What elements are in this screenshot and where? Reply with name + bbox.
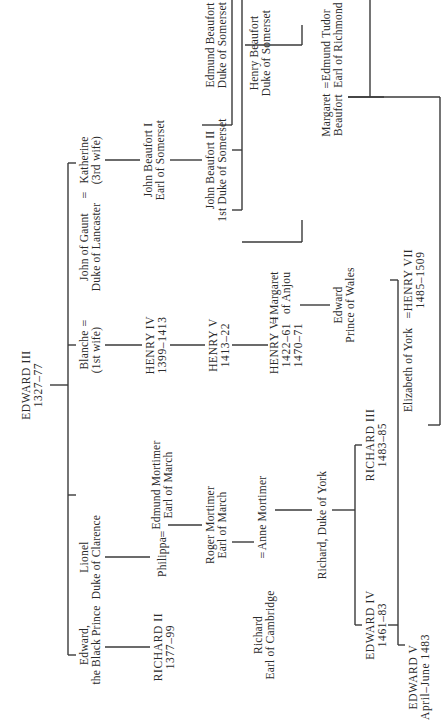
node-edward-v: EDWARD V April–June 1483 [407, 634, 431, 720]
marriage-symbol-blanche-gaunt: = [78, 320, 93, 327]
node-richard-ii: RICHARD II 1377–99 [152, 613, 176, 681]
richard-iii-dates: 1483–85 [376, 409, 388, 482]
node-edmund-mortimer: Edmund Mortimer Earl of March [150, 441, 174, 530]
edward-pow-name: Edward [332, 267, 344, 342]
beaufort-i-name: John Beaufort I [142, 120, 154, 200]
katherine-title: (3rd wife) [90, 136, 102, 184]
edward-iii-name: EDWARD III [20, 350, 32, 420]
henry-beaufort-name: Henry Beaufort [248, 10, 260, 96]
marriage-symbol-henry-margaret: = [268, 317, 283, 324]
node-katherine: Katherine (3rd wife) [78, 136, 102, 184]
family-tree-canvas: EDWARD III 1327–77 Edward, the Black Pri… [0, 0, 441, 725]
edmund-beaufort-name: Edmund Beaufort [204, 2, 216, 88]
node-edward-prince-of-wales: Edward Prince of Wales [332, 267, 356, 342]
node-edmund-tudor: Edmund Tudor Earl of Richmond [320, 2, 344, 88]
marriage-symbol-cambridge-anne: = [256, 552, 271, 559]
richard-cambridge-name: Richard [252, 591, 264, 680]
marriage-symbol-philippa-mortimer: = [156, 531, 171, 538]
margaret-beaufort-title: Beaufort [332, 93, 344, 137]
node-richard-cambridge: Richard Earl of Cambridge [252, 591, 276, 680]
richard-ii-dates: 1377–99 [164, 613, 176, 681]
henry-iv-dates: 1399–1413 [156, 316, 168, 374]
lionel-title: Duke of Clarence [90, 515, 102, 599]
edward-iv-name: EDWARD IV [364, 590, 376, 660]
edward-iv-dates: 1461–83 [376, 590, 388, 660]
node-richard-iii: RICHARD III 1483–85 [364, 409, 388, 482]
node-edward-iii: EDWARD III 1327–77 [20, 350, 44, 420]
node-margaret-of-anjou: Margaret of Anjou [268, 271, 292, 315]
margaret-anjou-name: Margaret [268, 271, 280, 315]
node-henry-vi: HENRY VI 1422–61 1470–71 [268, 316, 304, 374]
node-margaret-beaufort: Margaret Beaufort [320, 93, 344, 137]
node-edward-iv: EDWARD IV 1461–83 [364, 590, 388, 660]
margaret-anjou-title: of Anjou [280, 271, 292, 315]
edmund-tudor-name: Edmund Tudor [320, 2, 332, 88]
edmund-mortimer-name: Edmund Mortimer [150, 441, 162, 530]
henry-vii-name: HENRY VII [402, 249, 414, 312]
node-roger-mortimer: Roger Mortimer Earl of March [204, 486, 228, 564]
richard-york-name: Richard, Duke of York [316, 471, 328, 580]
node-elizabeth-of-york: Elizabeth of York [402, 328, 414, 412]
edmund-mortimer-title: Earl of March [162, 441, 174, 530]
margaret-beaufort-name: Margaret [320, 93, 332, 137]
node-philippa: Philippa [156, 537, 168, 577]
marriage-symbol-gaunt-katherine: = [78, 192, 93, 199]
lionel-name: Lionel [78, 515, 90, 599]
philippa-name: Philippa [156, 537, 168, 577]
henry-v-dates: 1413–22 [219, 318, 231, 372]
edward-iii-dates: 1327–77 [32, 350, 44, 420]
node-richard-duke-of-york: Richard, Duke of York [316, 471, 328, 580]
node-john-beaufort-i: John Beaufort I Earl of Somerset [142, 120, 166, 200]
henry-iv-name: HENRY IV [144, 316, 156, 374]
anne-mortimer-name: Anne Mortimer [256, 476, 268, 550]
black-prince-name: Edward, [78, 605, 90, 684]
blanche-title: (1st wife) [90, 327, 102, 373]
node-john-of-gaunt: John of Gaunt Duke of Lancaster [78, 203, 102, 291]
edward-v-dates: April–June 1483 [419, 634, 431, 720]
node-henry-beaufort: Henry Beaufort Duke of Somerset [248, 10, 272, 96]
gaunt-name: John of Gaunt [78, 203, 90, 291]
elizabeth-york-name: Elizabeth of York [402, 328, 414, 412]
node-henry-vii: HENRY VII 1485–1509 [402, 249, 426, 312]
roger-mortimer-title: Earl of March [216, 486, 228, 564]
edward-pow-title: Prince of Wales [344, 267, 356, 342]
henry-beaufort-title: Duke of Somerset [260, 10, 272, 96]
roger-mortimer-name: Roger Mortimer [204, 486, 216, 564]
edmund-beaufort-title: Duke of Somerset [216, 2, 228, 88]
blanche-name: Blanche [78, 327, 90, 373]
gaunt-title: Duke of Lancaster [90, 203, 102, 291]
beaufort-ii-name: John Beaufort II [204, 118, 216, 221]
henry-vi-dates-2: 1470–71 [292, 316, 304, 374]
richard-ii-name: RICHARD II [152, 613, 164, 681]
black-prince-title: the Black Prince [90, 605, 102, 684]
richard-iii-name: RICHARD III [364, 409, 376, 482]
henry-v-name: HENRY V [207, 318, 219, 372]
henry-vii-dates: 1485–1509 [414, 249, 426, 312]
marriage-symbol-elizabeth-henry: = [402, 312, 417, 319]
henry-vi-dates: 1422–61 [280, 316, 292, 374]
node-blanche: Blanche (1st wife) [78, 327, 102, 373]
node-black-prince: Edward, the Black Prince [78, 605, 102, 684]
edward-v-name: EDWARD V [407, 634, 419, 720]
richard-cambridge-title: Earl of Cambridge [264, 591, 276, 680]
node-anne-mortimer: Anne Mortimer [256, 476, 268, 550]
node-john-beaufort-ii: John Beaufort II 1st Duke of Somerset [204, 118, 228, 221]
node-henry-iv: HENRY IV 1399–1413 [144, 316, 168, 374]
edmund-tudor-title: Earl of Richmond [332, 2, 344, 88]
katherine-name: Katherine [78, 136, 90, 184]
node-edmund-beaufort: Edmund Beaufort Duke of Somerset [204, 2, 228, 88]
node-henry-v: HENRY V 1413–22 [207, 318, 231, 372]
henry-vi-name: HENRY VI [268, 316, 280, 374]
node-lionel: Lionel Duke of Clarence [78, 515, 102, 599]
beaufort-ii-title: 1st Duke of Somerset [216, 118, 228, 221]
beaufort-i-title: Earl of Somerset [154, 120, 166, 200]
